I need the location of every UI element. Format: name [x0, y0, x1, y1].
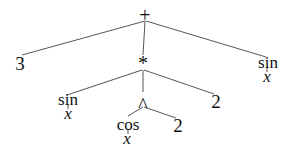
edge-root-three — [22, 21, 145, 55]
node-power: ^ — [138, 94, 148, 116]
node-sin-left-arg: x — [63, 104, 72, 123]
node-three: 3 — [15, 53, 25, 74]
node-multiply: * — [138, 52, 148, 74]
node-plus: + — [139, 4, 150, 26]
edge-mult-sin-left — [67, 70, 142, 95]
node-sin-right-arg: x — [262, 67, 271, 86]
edge-pow-two — [144, 107, 176, 118]
expression-tree-diagram: + 3 * sin x sin x ^ 2 cos x 2 — [0, 0, 291, 152]
node-two-pow: 2 — [173, 115, 183, 136]
edge-root-mult — [143, 21, 145, 55]
node-cos-arg: x — [122, 129, 131, 148]
node-two-mult: 2 — [211, 91, 221, 112]
edge-mult-two — [144, 70, 214, 94]
edge-root-sin-right — [146, 21, 266, 57]
